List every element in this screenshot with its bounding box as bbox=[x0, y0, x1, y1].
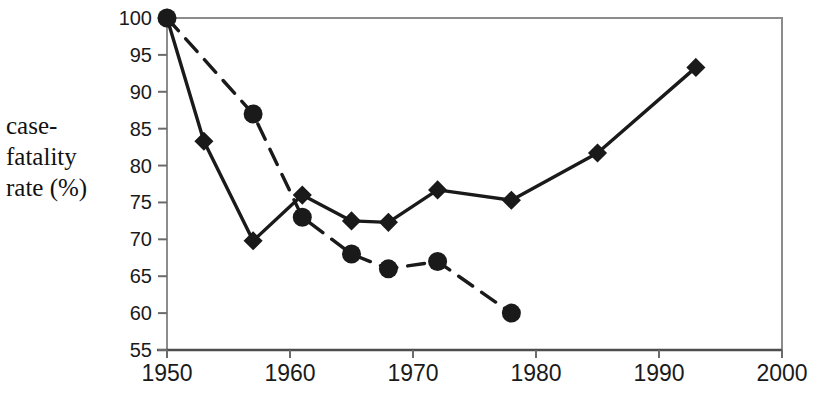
y-tick-label: 55 bbox=[130, 339, 152, 361]
data-point-circle bbox=[293, 208, 312, 227]
data-point-circle bbox=[158, 9, 177, 28]
y-tick-label: 65 bbox=[130, 265, 152, 287]
series-line-circle bbox=[167, 18, 511, 313]
y-axis-label: case- fatality rate (%) bbox=[6, 110, 156, 203]
data-point-circle bbox=[428, 252, 447, 271]
x-tick-label: 1980 bbox=[510, 360, 561, 386]
x-tick-label: 1950 bbox=[141, 360, 192, 386]
y-axis-label-line-2: fatality bbox=[6, 141, 156, 172]
data-point-circle bbox=[244, 104, 263, 123]
x-tick-label: 1960 bbox=[264, 360, 315, 386]
series-line-diamond bbox=[167, 18, 696, 241]
y-tick-label: 90 bbox=[130, 81, 152, 103]
data-series-group bbox=[158, 9, 705, 323]
data-point-diamond bbox=[503, 192, 520, 209]
x-tick-label: 1990 bbox=[633, 360, 684, 386]
y-axis-label-line-1: case- bbox=[6, 110, 156, 141]
data-point-diamond bbox=[195, 133, 212, 150]
y-tick-label: 100 bbox=[119, 7, 152, 29]
data-point-diamond bbox=[343, 212, 360, 229]
data-point-circle bbox=[379, 259, 398, 278]
data-point-circle bbox=[502, 304, 521, 323]
y-axis-label-line-3: rate (%) bbox=[6, 172, 156, 203]
y-tick-label: 95 bbox=[130, 44, 152, 66]
chart-figure: case- fatality rate (%) 5560657075808590… bbox=[0, 0, 814, 400]
x-axis-ticks: 195019601970198019902000 bbox=[141, 350, 807, 386]
data-point-diamond bbox=[380, 214, 397, 231]
x-tick-label: 2000 bbox=[756, 360, 807, 386]
x-tick-label: 1970 bbox=[387, 360, 438, 386]
data-point-circle bbox=[342, 245, 361, 264]
y-tick-label: 70 bbox=[130, 228, 152, 250]
y-tick-label: 60 bbox=[130, 302, 152, 324]
